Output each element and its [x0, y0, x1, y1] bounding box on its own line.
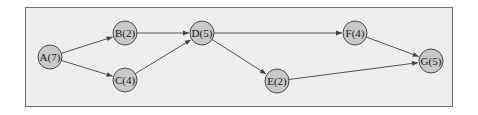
node-b-label: B(2) [110, 26, 140, 40]
edge-f-g [366, 37, 419, 56]
node-a-label: A(7) [35, 50, 65, 64]
edge-a-c [62, 61, 113, 77]
node-e-label: E(2) [262, 74, 292, 88]
node-d-label: D(5) [187, 26, 217, 40]
edge-d-e [212, 40, 266, 75]
nodes-layer [38, 21, 443, 93]
node-g-label: G(5) [416, 54, 446, 68]
node-c-label: C(4) [110, 73, 140, 87]
node-f-label: F(4) [340, 26, 370, 40]
edge-c-d [135, 40, 191, 74]
edge-a-b [61, 37, 112, 53]
edge-e-g [289, 63, 418, 80]
graph-canvas [0, 0, 478, 115]
